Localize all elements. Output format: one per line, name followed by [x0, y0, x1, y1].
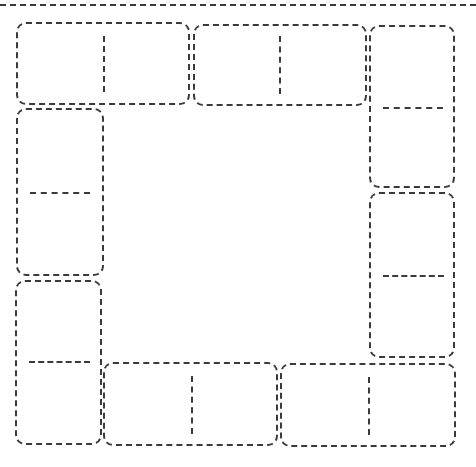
domino-tile-7	[103, 362, 278, 446]
tile-1-right-half	[106, 24, 188, 103]
domino-tile-2	[193, 24, 367, 106]
tile-6-bottom-half	[17, 363, 100, 443]
center-empty-area	[106, 108, 368, 361]
tile-8-left-half	[282, 365, 368, 445]
tile-8-right-half	[370, 365, 454, 445]
domino-tile-4	[16, 108, 104, 276]
domino-tile-6	[15, 280, 102, 445]
tile-6-top-half	[17, 282, 100, 361]
domino-tile-1	[16, 22, 190, 105]
domino-tile-3	[369, 25, 455, 188]
tile-3-bottom-half	[371, 109, 453, 186]
tile-4-bottom-half	[18, 194, 102, 274]
tile-7-left-half	[105, 364, 191, 444]
domino-tile-8	[280, 363, 456, 447]
tile-5-top-half	[371, 194, 453, 275]
tile-2-left-half	[195, 26, 280, 104]
top-dashed-rule	[0, 4, 476, 6]
tile-4-top-half	[18, 110, 102, 192]
tile-1-left-half	[18, 24, 104, 103]
tile-2-right-half	[282, 26, 365, 104]
tile-7-right-half	[193, 364, 276, 444]
tile-2-divider	[279, 36, 281, 94]
domino-tile-5	[369, 192, 455, 358]
tile-1-divider	[103, 36, 105, 92]
tile-5-bottom-half	[371, 277, 453, 356]
tile-3-top-half	[371, 27, 453, 107]
